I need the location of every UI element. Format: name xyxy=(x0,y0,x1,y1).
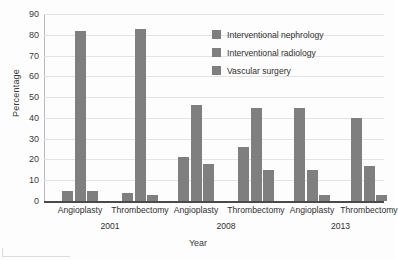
legend-item: Interventional radiology xyxy=(212,45,324,60)
y-axis-tick-label: 70 xyxy=(29,51,39,61)
chart-legend: Interventional nephrology Interventional… xyxy=(212,27,324,81)
bar xyxy=(87,191,98,201)
y-axis-tick-label: 10 xyxy=(29,175,39,185)
bar xyxy=(135,29,146,201)
x-axis-category-label: Thrombectomy xyxy=(111,205,168,215)
y-axis-tick-label: 50 xyxy=(29,92,39,102)
bar xyxy=(203,164,214,201)
bar xyxy=(294,108,305,202)
bar xyxy=(178,157,189,201)
scan-border-bottom xyxy=(2,256,70,257)
x-axis-line xyxy=(44,201,384,203)
gridline xyxy=(44,118,384,119)
gridline xyxy=(44,139,384,140)
gridline xyxy=(44,159,384,160)
gridline xyxy=(44,97,384,98)
x-axis-category-label: Thrombectomy xyxy=(340,205,397,215)
legend-item: Interventional nephrology xyxy=(212,27,324,42)
bar xyxy=(238,147,249,201)
bar xyxy=(191,105,202,201)
legend-item-label: Interventional radiology xyxy=(227,48,316,58)
x-axis-year-label: 2008 xyxy=(216,221,235,231)
legend-swatch-icon xyxy=(212,66,221,75)
x-axis-category-label: Angioplasty xyxy=(290,205,334,215)
legend-item-label: Interventional nephrology xyxy=(227,30,324,40)
x-axis-title: Year xyxy=(0,238,396,248)
legend-swatch-icon xyxy=(212,48,221,57)
y-axis-tick-label: 20 xyxy=(29,154,39,164)
legend-item: Vascular surgery xyxy=(212,63,324,78)
y-axis-tick-label: 30 xyxy=(29,134,39,144)
bar xyxy=(75,31,86,201)
x-axis-year-label: 2013 xyxy=(331,221,350,231)
y-axis-tick-label: 40 xyxy=(29,113,39,123)
bar xyxy=(351,118,362,201)
bar xyxy=(263,170,274,201)
gridline xyxy=(44,180,384,181)
y-axis-title: Percentage xyxy=(11,48,21,138)
bar xyxy=(62,191,73,201)
y-axis-tick-label: 80 xyxy=(29,30,39,40)
y-axis-tick-label: 90 xyxy=(29,9,39,19)
y-axis-tick-label: 0 xyxy=(34,196,39,206)
legend-swatch-icon xyxy=(212,30,221,39)
x-axis-year-label: 2001 xyxy=(100,221,119,231)
gridline xyxy=(44,14,384,15)
y-axis-tick-label: 60 xyxy=(29,71,39,81)
x-axis-category-label: Angioplasty xyxy=(58,205,102,215)
x-axis-category-label: Thrombectomy xyxy=(227,205,284,215)
bar xyxy=(364,166,375,201)
bar xyxy=(122,193,133,201)
bar xyxy=(251,108,262,202)
x-axis-category-label: Angioplasty xyxy=(174,205,218,215)
scan-border-left xyxy=(2,248,3,257)
bar xyxy=(307,170,318,201)
legend-item-label: Vascular surgery xyxy=(227,66,291,76)
